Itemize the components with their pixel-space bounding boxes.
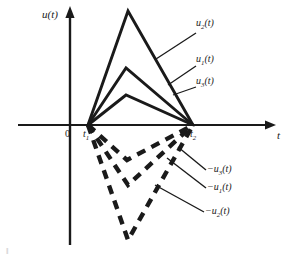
leader-neg-u3	[178, 147, 206, 170]
curve-neg-u3	[88, 125, 193, 160]
axis-label-t: t	[277, 129, 280, 141]
corner-artifact: ‖	[6, 246, 12, 254]
leader-neg-u1	[167, 158, 206, 188]
axis-label-u: u(t)	[42, 8, 58, 20]
tick-label-t1-sub: 1	[86, 134, 89, 141]
plot-svg	[0, 0, 288, 260]
horizontal-axis	[18, 121, 276, 130]
curve-label-neg-u3: −u3(t)	[207, 163, 232, 176]
curve-label-u1-arg: (t)	[204, 53, 213, 64]
leader-u3	[173, 87, 196, 95]
curve-label-neg-u1-base: −u	[207, 181, 219, 192]
curve-label-neg-u2: −u2(t)	[205, 205, 230, 218]
tick-label-t1: t1	[83, 128, 89, 141]
curve-label-neg-u3-base: −u	[207, 163, 219, 174]
curve-neg-u2	[88, 125, 193, 240]
horizontal-axis-arrowhead	[265, 121, 276, 130]
tick-label-t2: t2	[190, 128, 196, 141]
curve-label-u2-arg: (t)	[204, 17, 213, 28]
leader-u1	[168, 66, 196, 85]
curve-label-u3: u3(t)	[196, 75, 214, 88]
tick-label-t2-sub: 2	[193, 134, 196, 141]
curve-label-neg-u1-arg: (t)	[222, 181, 231, 192]
curve-label-neg-u3-arg: (t)	[222, 163, 231, 174]
curve-label-neg-u1: −u1(t)	[207, 181, 232, 194]
curve-label-u1: u1(t)	[196, 53, 214, 66]
curve-label-u2: u2(t)	[196, 17, 214, 30]
leader-neg-u2	[155, 185, 204, 212]
leader-u2	[156, 33, 196, 59]
curve-label-neg-u2-base: −u	[205, 205, 217, 216]
curve-label-neg-u2-arg: (t)	[220, 205, 229, 216]
curve-u2	[88, 11, 193, 125]
tick-label-origin: 0	[65, 128, 70, 139]
figure-canvas: u(t) t 0 t1 t2 u2(t) u1(t) u3(t) −u3(t) …	[0, 0, 288, 260]
curve-label-u3-arg: (t)	[204, 75, 213, 86]
vertical-axis-arrowhead	[65, 6, 74, 18]
